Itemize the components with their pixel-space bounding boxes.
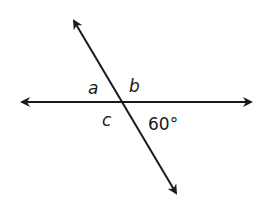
angle-label-a: a (88, 80, 98, 97)
angle-label-60-degrees: 60° (148, 116, 178, 133)
angle-label-b: b (129, 78, 140, 95)
transversal-line (74, 21, 176, 193)
angle-label-c: c (102, 112, 111, 129)
lines-svg (0, 0, 266, 208)
angle-diagram: a b c 60° (0, 0, 266, 208)
